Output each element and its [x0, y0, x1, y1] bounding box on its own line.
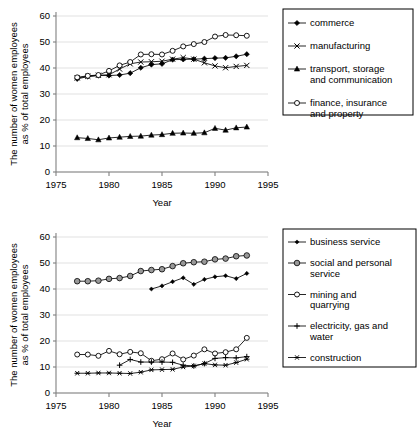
legend-label: finance, insurance [310, 97, 387, 108]
data-point [245, 271, 249, 275]
data-point [106, 371, 111, 375]
chart-bottom-svg: 0102030405060 19751980198519901995 YearT… [0, 221, 418, 443]
data-point [74, 278, 80, 284]
data-point [117, 63, 122, 68]
y-tick-label: 50 [39, 36, 50, 47]
legend-label-cont: service [310, 268, 340, 279]
legend-label: social and personal [310, 257, 392, 268]
data-point [213, 34, 218, 39]
y-tick-label: 30 [39, 88, 50, 99]
y-tick-label: 10 [39, 140, 50, 151]
y-axis-title-line2: as % of total employees [19, 264, 30, 365]
data-point [128, 71, 133, 76]
series-transport-storage-and-communication [75, 124, 250, 142]
legend-label-cont: and communication [310, 74, 392, 85]
x-tick-label: 1975 [45, 179, 66, 190]
data-point [170, 367, 175, 371]
series-line [151, 273, 246, 289]
legend-marker [295, 101, 300, 106]
data-point [138, 268, 144, 274]
data-point [159, 61, 164, 66]
figure-page: 0102030405060 19751980198519901995 YearT… [0, 0, 418, 443]
chart-top: 0102030405060 19751980198519901995 YearT… [0, 0, 418, 221]
data-point [170, 48, 175, 53]
data-point [192, 282, 196, 286]
data-point [234, 277, 238, 281]
legend-top: commercemanufacturingtransport, storagea… [283, 9, 413, 119]
x-tick-label: 1975 [45, 400, 66, 411]
data-point [85, 352, 90, 357]
x-axis-title: Year [152, 418, 171, 429]
legend-label-cont: and property [310, 108, 364, 119]
data-point [138, 351, 143, 356]
data-point [160, 52, 165, 57]
legend-marker [294, 260, 300, 266]
y-axis-title-line2: as % of total employees [19, 43, 30, 144]
data-point [117, 275, 123, 281]
data-point [96, 371, 101, 375]
data-point [138, 52, 143, 57]
data-point [191, 259, 197, 265]
data-point [244, 335, 249, 340]
data-point [233, 253, 239, 259]
legend-label: transport, storage [310, 63, 384, 74]
data-point [244, 33, 249, 38]
legend-label: mining and [310, 289, 356, 300]
data-point [234, 360, 239, 364]
legend-marker [295, 292, 300, 297]
x-tick-label: 1995 [257, 400, 278, 411]
y-tick-label: 20 [39, 335, 50, 346]
data-point [159, 266, 165, 272]
series-business-service [149, 271, 249, 291]
data-point [244, 253, 250, 259]
data-point [149, 287, 153, 291]
y-tick-label: 0 [45, 387, 50, 398]
data-point [202, 40, 207, 45]
y-tick-labels-top: 0102030405060 [39, 10, 50, 177]
x-tick-label: 1990 [204, 400, 225, 411]
data-point [85, 73, 90, 78]
y-tick-label: 40 [39, 62, 50, 73]
data-point [180, 260, 186, 266]
data-point [181, 130, 186, 135]
x-tick-label: 1980 [98, 179, 119, 190]
series-social-and-personal-service [74, 253, 249, 284]
series-group-top [75, 32, 250, 141]
data-point [191, 353, 196, 358]
data-point [127, 273, 133, 279]
x-tick-label: 1990 [204, 179, 225, 190]
data-point [149, 368, 154, 372]
chart-top-svg: 0102030405060 19751980198519901995 YearT… [0, 0, 418, 221]
data-point [202, 259, 208, 265]
x-axis-title: Year [152, 197, 171, 208]
legend-label-cont: water [309, 331, 333, 342]
y-axis-title-line1: The number of women employees [8, 243, 19, 387]
data-point [107, 348, 112, 353]
y-tick-label: 60 [39, 10, 50, 21]
data-point [96, 353, 101, 358]
y-tick-label: 0 [45, 166, 50, 177]
data-point [107, 68, 112, 73]
data-point [106, 276, 112, 282]
data-point [149, 52, 154, 57]
data-point [149, 267, 155, 273]
data-point [171, 280, 175, 284]
data-point [160, 284, 164, 288]
data-point [75, 75, 80, 80]
legend-label: electricity, gas and [310, 320, 388, 331]
gridlines-top [56, 16, 268, 172]
x-tick-labels-bottom: 19751980198519901995 [45, 400, 278, 411]
data-point [75, 135, 80, 140]
data-point [170, 360, 176, 366]
x-tick-labels-top: 19751980198519901995 [45, 179, 278, 190]
data-point [223, 55, 228, 60]
data-point [170, 263, 176, 269]
data-point [223, 355, 229, 361]
data-point [75, 371, 80, 375]
data-point [181, 357, 186, 362]
y-tick-label: 20 [39, 114, 50, 125]
chart-bottom: 0102030405060 19751980198519901995 YearT… [0, 221, 418, 443]
y-tick-label: 30 [39, 309, 50, 320]
data-point [202, 277, 206, 281]
data-point [85, 278, 91, 284]
